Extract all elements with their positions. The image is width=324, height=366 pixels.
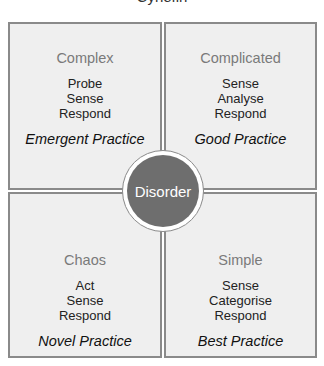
clipped-title: Cynefin xyxy=(0,0,324,5)
practice-label: Good Practice xyxy=(166,131,315,147)
quadrant-name: Complicated xyxy=(166,50,315,66)
step: Respond xyxy=(166,106,315,121)
disorder-label: Disorder xyxy=(135,183,192,200)
disorder-circle: Disorder xyxy=(127,155,199,227)
step: Respond xyxy=(10,308,160,323)
step: Sense xyxy=(10,293,160,308)
step: Respond xyxy=(10,106,160,121)
step: Act xyxy=(10,278,160,293)
quadrant-name: Chaos xyxy=(10,252,160,268)
step: Categorise xyxy=(166,293,315,308)
quadrant-name: Simple xyxy=(166,252,315,268)
practice-label: Novel Practice xyxy=(10,333,160,349)
step: Sense xyxy=(166,278,315,293)
practice-label: Emergent Practice xyxy=(10,131,160,147)
step: Sense xyxy=(166,76,315,91)
step: Analyse xyxy=(166,91,315,106)
practice-label: Best Practice xyxy=(166,333,315,349)
step: Sense xyxy=(10,91,160,106)
quadrant-name: Complex xyxy=(10,50,160,66)
step: Respond xyxy=(166,308,315,323)
step: Probe xyxy=(10,76,160,91)
